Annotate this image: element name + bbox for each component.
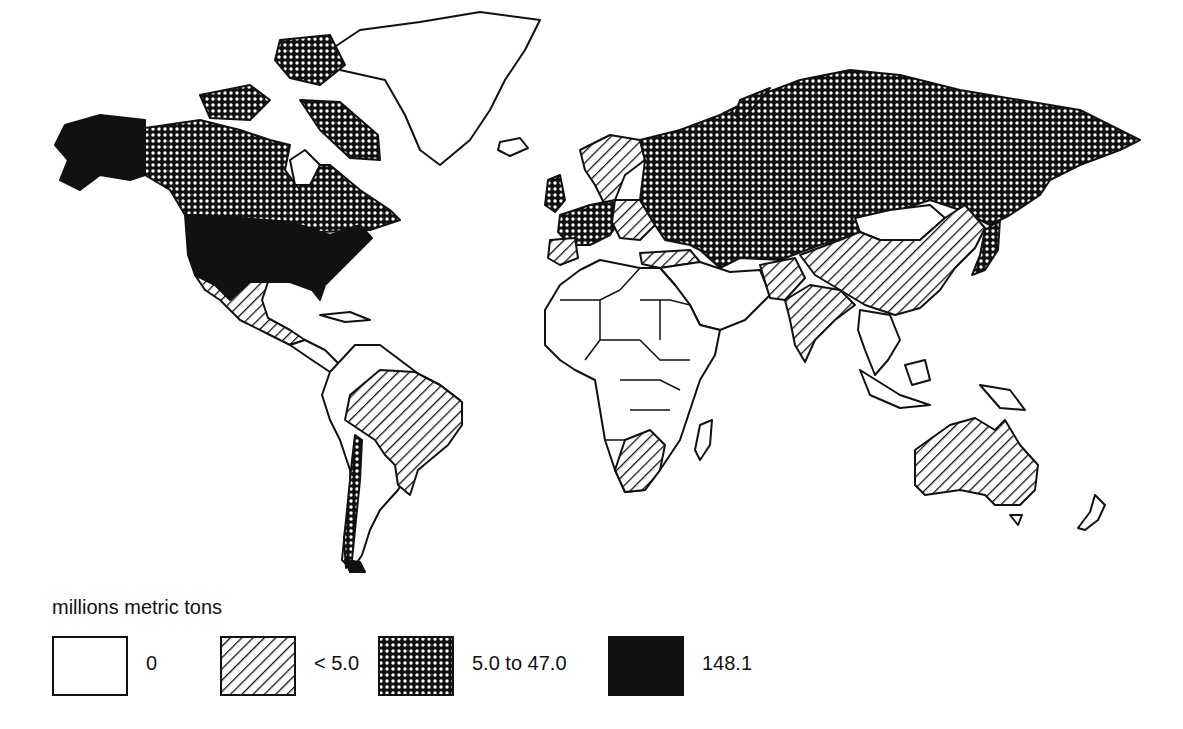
legend-swatch-diagonal — [220, 636, 296, 696]
legend-swatch-none — [52, 636, 128, 696]
region-canada-arctic-3 — [300, 100, 380, 160]
region-uk — [545, 175, 565, 212]
region-new-guinea — [980, 385, 1025, 410]
legend-swatch-crosshatch — [378, 636, 454, 696]
region-mexico — [195, 275, 305, 345]
region-caribbean — [320, 312, 370, 322]
legend-label: 148.1 — [702, 652, 752, 675]
region-alaska — [55, 115, 145, 190]
region-iceland — [498, 138, 528, 156]
region-scandinavia — [580, 135, 645, 205]
region-madagascar — [695, 420, 712, 460]
legend-label: 0 — [146, 652, 157, 675]
region-canada-arctic-2 — [200, 85, 270, 120]
legend-title: millions metric tons — [52, 596, 222, 619]
legend-label: 5.0 to 47.0 — [472, 652, 567, 675]
region-tierra-del-fuego — [345, 560, 365, 572]
region-australia — [915, 418, 1038, 505]
region-canada-arctic — [275, 35, 345, 85]
legend-swatch-solid — [608, 636, 684, 696]
region-se-asia — [858, 310, 900, 375]
region-new-zealand — [1078, 495, 1105, 530]
region-spain — [548, 238, 578, 265]
legend-label: < 5.0 — [314, 652, 359, 675]
region-tasmania — [1010, 515, 1022, 525]
region-central-america — [290, 340, 340, 372]
region-india — [785, 285, 855, 362]
world-map — [0, 0, 1183, 590]
region-borneo — [905, 360, 930, 385]
